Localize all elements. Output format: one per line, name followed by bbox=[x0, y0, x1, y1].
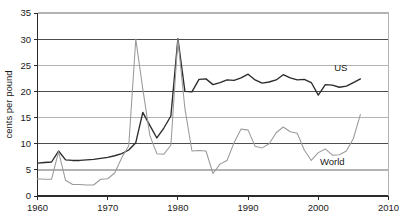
x-tick-label-1970: 1970 bbox=[97, 202, 118, 213]
y-tick-label-20: 20 bbox=[20, 86, 31, 97]
y-tick-label-25: 25 bbox=[20, 60, 31, 71]
x-tick-label-1980: 1980 bbox=[167, 202, 188, 213]
y-tick-label-10: 10 bbox=[20, 138, 31, 149]
chart-container: 05101520253035 196019701980199020002010 … bbox=[0, 0, 407, 221]
y-tick-label-30: 30 bbox=[20, 34, 31, 45]
x-tick-label-1960: 1960 bbox=[27, 202, 48, 213]
y-tick-label-35: 35 bbox=[20, 7, 31, 18]
y-axis-title: cents per pound bbox=[3, 70, 14, 138]
gridlines-group bbox=[38, 13, 389, 170]
series-line-us bbox=[38, 39, 361, 163]
y-tick-group: 05101520253035 bbox=[20, 7, 37, 201]
series-line-world bbox=[38, 39, 361, 185]
y-tick-label-15: 15 bbox=[20, 112, 31, 123]
series-labels-group: USWorld bbox=[320, 62, 347, 167]
y-tick-label-5: 5 bbox=[26, 164, 31, 175]
y-tick-label-0: 0 bbox=[26, 190, 31, 201]
series-label-world: World bbox=[320, 156, 345, 167]
x-tick-label-2010: 2010 bbox=[378, 202, 399, 213]
x-tick-label-1990: 1990 bbox=[238, 202, 259, 213]
x-tick-group: 196019701980199020002010 bbox=[27, 196, 399, 213]
series-paths-group bbox=[38, 39, 361, 185]
series-label-us: US bbox=[334, 62, 347, 73]
line-chart: 05101520253035 196019701980199020002010 … bbox=[0, 0, 407, 221]
axis-lines-group bbox=[38, 13, 389, 196]
x-tick-label-2000: 2000 bbox=[308, 202, 329, 213]
